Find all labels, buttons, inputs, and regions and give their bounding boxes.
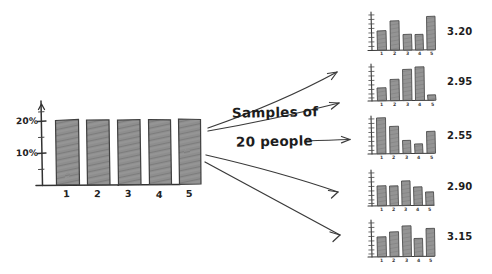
sample-5-xtick-2: 2: [392, 258, 395, 263]
sample-3-xtick-3: 3: [405, 155, 408, 160]
sample-chart-3: [368, 116, 436, 154]
sample-3-xtick-1: 1: [380, 155, 383, 160]
sample-2-xtick-5: 5: [431, 102, 434, 107]
sample-2-value: 2.95: [447, 76, 472, 87]
main-chart-xtick-2: 2: [94, 188, 101, 199]
sample-4-xtick-3: 3: [404, 207, 407, 212]
sample-4-xtick-4: 4: [416, 207, 419, 212]
sample-4-value: 2.90: [447, 181, 472, 192]
sample-5-xtick-4: 4: [417, 258, 420, 263]
sample-5-value: 3.15: [447, 231, 472, 242]
sample-1-xtick-1: 1: [380, 51, 383, 56]
sample-4-xtick-2: 2: [392, 207, 395, 212]
sample-3-value: 2.55: [447, 130, 472, 141]
sample-1-xtick-5: 5: [430, 51, 433, 56]
sample-2-xtick-3: 3: [406, 102, 409, 107]
sample-chart-4: [368, 170, 434, 206]
main-chart-xtick-5: 5: [186, 188, 193, 199]
main-chart-bars: [56, 119, 202, 185]
sample-5-xtick-3: 3: [405, 258, 408, 263]
sample-2-xtick-4: 4: [418, 102, 421, 107]
sample-5-xtick-5: 5: [429, 258, 432, 263]
sample-1-xtick-2: 2: [393, 51, 396, 56]
sample-2-xtick-2: 2: [393, 102, 396, 107]
sample-4-xtick-5: 5: [428, 207, 431, 212]
sample-5-xtick-1: 1: [380, 258, 383, 263]
sample-1-value: 3.20: [447, 26, 472, 37]
sample-1-xtick-3: 3: [406, 51, 409, 56]
sample-4-xtick-1: 1: [380, 207, 383, 212]
sample-chart-1: [368, 12, 436, 51]
caption-line-2: 20 people: [236, 132, 313, 149]
sample-3-xtick-4: 4: [417, 155, 420, 160]
sampling-arrows: [205, 72, 350, 242]
sample-chart-2: [368, 64, 436, 101]
sample-2-xtick-1: 1: [380, 102, 383, 107]
handdrawn-sampling-diagram: 20% 10% 1 2 3 4 5 Samples of 20 people 3…: [0, 0, 492, 274]
sample-chart-5: [368, 220, 435, 257]
main-chart-xtick-1: 1: [63, 188, 70, 199]
main-chart-xtick-4: 4: [156, 189, 163, 200]
sample-1-xtick-4: 4: [418, 51, 421, 56]
caption-line-1: Samples of: [232, 103, 319, 121]
main-chart-ytick-20: 20%: [16, 116, 38, 127]
main-chart-ytick-10: 10%: [16, 148, 38, 159]
sample-3-xtick-2: 2: [392, 155, 395, 160]
main-chart-xtick-3: 3: [125, 188, 132, 199]
sample-3-xtick-5: 5: [430, 155, 433, 160]
